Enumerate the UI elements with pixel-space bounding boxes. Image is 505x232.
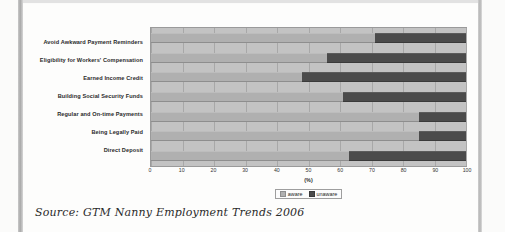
bar-segment-aware	[151, 72, 302, 82]
category-label: Avoid Awkward Payment Reminders	[23, 33, 147, 51]
legend-swatch-aware	[280, 191, 286, 197]
category-label: Eligibility for Workers' Compensation	[23, 51, 147, 69]
bar-segment-unaware	[327, 53, 466, 63]
gridline	[466, 28, 467, 166]
x-tick-label: 80	[401, 167, 407, 173]
x-axis-title: (%)	[150, 177, 467, 183]
bar-row	[151, 72, 466, 82]
bar-segment-unaware	[419, 131, 466, 141]
legend-item: aware	[280, 191, 303, 197]
bar-segment-aware	[151, 112, 419, 122]
category-label: Building Social Security Funds	[23, 87, 147, 105]
x-tick-label: 10	[179, 167, 185, 173]
bar-row	[151, 131, 466, 141]
category-label: Being Legally Paid	[23, 123, 147, 141]
x-tick-label: 0	[149, 167, 152, 173]
x-tick-label: 100	[463, 167, 472, 173]
x-tick-label: 40	[274, 167, 280, 173]
page-edge-right	[478, 0, 482, 232]
x-tick-label: 50	[306, 167, 312, 173]
bar-segment-unaware	[349, 151, 466, 161]
figure-container: Avoid Awkward Payment RemindersEligibili…	[23, 4, 478, 232]
bar-segment-aware	[151, 53, 327, 63]
bar-segment-aware	[151, 131, 419, 141]
bar-row	[151, 33, 466, 43]
category-label: Regular and On-time Payments	[23, 105, 147, 123]
category-label: Earned Income Credit	[23, 69, 147, 87]
bar-row	[151, 92, 466, 102]
legend-label: unaware	[317, 191, 338, 197]
bar-segment-unaware	[419, 112, 466, 122]
stacked-bar-chart: Avoid Awkward Payment RemindersEligibili…	[23, 20, 478, 195]
category-axis-labels: Avoid Awkward Payment RemindersEligibili…	[23, 33, 147, 159]
legend-label: aware	[288, 191, 303, 197]
bar-series-group	[151, 28, 466, 166]
bar-row	[151, 53, 466, 63]
page-top-rule	[23, 0, 478, 3]
x-tick-label: 70	[369, 167, 375, 173]
bar-segment-unaware	[375, 33, 466, 43]
bar-segment-aware	[151, 92, 343, 102]
bar-segment-unaware	[302, 72, 466, 82]
x-tick-label: 60	[337, 167, 343, 173]
category-label: Direct Deposit	[23, 141, 147, 159]
bar-segment-aware	[151, 151, 349, 161]
bar-row	[151, 151, 466, 161]
x-tick-label: 30	[242, 167, 248, 173]
legend-swatch-unaware	[309, 191, 315, 197]
bar-segment-unaware	[343, 92, 466, 102]
source-caption: Source: GTM Nanny Employment Trends 2006	[35, 206, 305, 219]
legend: awareunaware	[150, 189, 467, 199]
bar-segment-aware	[151, 33, 375, 43]
legend-item: unaware	[309, 191, 338, 197]
legend-box: awareunaware	[275, 189, 342, 199]
x-tick-label: 20	[211, 167, 217, 173]
x-tick-label: 90	[432, 167, 438, 173]
bar-row	[151, 112, 466, 122]
plot-area	[150, 27, 467, 167]
